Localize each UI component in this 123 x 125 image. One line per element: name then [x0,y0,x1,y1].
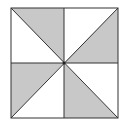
center-point [63,62,66,65]
pinwheel-diagram [0,0,123,125]
